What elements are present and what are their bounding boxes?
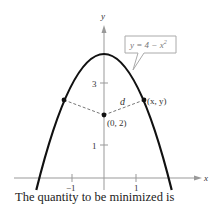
right-point [142,98,147,103]
center-point [102,113,107,118]
equation-label: y = 4 − x2 [129,39,167,50]
x-axis-arrow-icon [194,176,202,181]
equation-callout: y = 4 − x2 [125,36,176,70]
y-axis-label: y [100,11,105,21]
y-tick-label-3: 3 [92,79,97,89]
y-tick-label-1: 1 [92,141,97,151]
y-axis-arrow-icon [102,25,107,33]
x-axis-label: x [203,173,208,183]
left-point [62,98,67,103]
center-point-label: (0, 2) [107,118,127,128]
distance-line-left [64,100,104,115]
parabola-diagram: x y −1 1 3 1 d (x, y) (0, 2) y = 4 − x2 [0,0,213,209]
caption-text: The quantity to be minimized is [15,190,174,205]
distance-label: d [120,96,126,107]
right-point-label: (x, y) [147,96,167,106]
